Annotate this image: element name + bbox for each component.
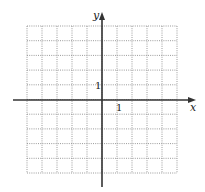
coordinate-plane: y x 1 1 <box>0 0 205 192</box>
x-axis-label: x <box>190 101 197 114</box>
x-tick-label: 1 <box>116 102 122 113</box>
y-axis-arrow-icon <box>99 12 105 20</box>
y-axis-label: y <box>92 9 100 22</box>
y-tick-label: 1 <box>95 80 101 91</box>
